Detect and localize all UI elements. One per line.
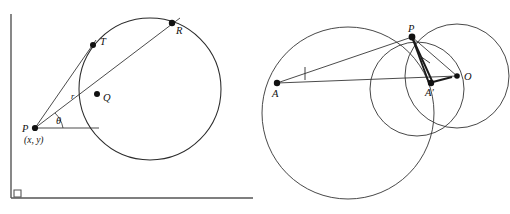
- point-A-dot: [274, 80, 280, 86]
- point-O-label: O: [464, 71, 472, 82]
- right-diagram-medium-circle: [370, 42, 464, 136]
- point-P-dot: [32, 125, 38, 131]
- point-A-label: A: [271, 88, 279, 99]
- point-T-label: T: [100, 36, 107, 47]
- point-R-dot: [169, 20, 175, 26]
- origin-right-angle-icon: [14, 190, 21, 197]
- point-Q-dot: [94, 91, 100, 97]
- point-R-label: R: [175, 25, 183, 36]
- right-diagram: A A′ P O: [262, 23, 509, 199]
- segment-p-to-t: [35, 40, 96, 128]
- point-P-right-dot: [409, 34, 416, 41]
- point-A-prime-dot: [428, 80, 434, 86]
- diagram-canvas: P Q T R (x, y) θ r: [0, 0, 510, 214]
- point-T-dot: [90, 42, 96, 48]
- point-P-right-label: P: [407, 23, 415, 34]
- figure-root: P Q T R (x, y) θ r: [0, 0, 510, 214]
- point-A-prime-label: A′: [424, 87, 434, 98]
- right-diagram-big-circle: [262, 27, 434, 199]
- point-O-dot: [454, 73, 460, 79]
- left-diagram: P Q T R (x, y) θ r: [11, 14, 253, 198]
- radius-r-label: r: [71, 91, 75, 101]
- angle-theta-label: θ: [56, 115, 61, 126]
- point-P-label: P: [21, 123, 29, 134]
- point-Q-label: Q: [103, 92, 111, 103]
- coordinates-label: (x, y): [24, 135, 44, 146]
- segment-p-to-r: [35, 18, 180, 128]
